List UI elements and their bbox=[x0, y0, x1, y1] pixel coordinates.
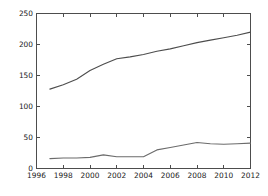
x-tick-label-2008: 2008 bbox=[188, 171, 207, 180]
y-tick-label-100: 100 bbox=[19, 102, 33, 111]
x-tick-label-2004: 2004 bbox=[134, 171, 153, 180]
y-tick-label-50: 50 bbox=[24, 133, 34, 142]
x-tick-label-2006: 2006 bbox=[161, 171, 180, 180]
chart-container: 050100150200250 199619982000200220042006… bbox=[0, 0, 268, 196]
x-tick-label-2002: 2002 bbox=[107, 171, 126, 180]
series-upper-series bbox=[50, 32, 251, 89]
x-axis-ticks bbox=[37, 14, 251, 169]
axis-frame bbox=[37, 14, 251, 169]
x-tick-label-2010: 2010 bbox=[214, 171, 233, 180]
y-axis-ticks bbox=[37, 14, 251, 169]
x-tick-label-1996: 1996 bbox=[27, 171, 46, 180]
data-series-group bbox=[50, 32, 251, 158]
y-tick-label-250: 250 bbox=[19, 9, 33, 18]
y-axis-tick-labels: 050100150200250 bbox=[19, 9, 33, 173]
x-axis-tick-labels: 199619982000200220042006200820102012 bbox=[27, 171, 260, 180]
x-tick-label-2012: 2012 bbox=[241, 171, 260, 180]
x-tick-label-2000: 2000 bbox=[81, 171, 100, 180]
plot-frame bbox=[37, 14, 251, 169]
series-lower-series bbox=[50, 142, 251, 158]
y-tick-label-150: 150 bbox=[19, 71, 33, 80]
x-tick-label-1998: 1998 bbox=[54, 171, 73, 180]
y-tick-label-200: 200 bbox=[19, 40, 33, 49]
line-chart: 050100150200250 199619982000200220042006… bbox=[0, 0, 268, 196]
